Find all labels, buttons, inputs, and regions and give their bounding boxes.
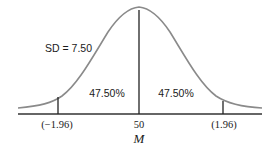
x-axis-label: M [133, 131, 146, 146]
left-area-label: 47.50% [89, 87, 125, 99]
normal-distribution-chart: SD = 7.50 47.50% 47.50% (−1.96) 50 (1.96… [0, 0, 278, 155]
normal-curve [18, 7, 262, 108]
tick-label-center: 50 [134, 119, 145, 130]
tick-label-left: (−1.96) [41, 119, 73, 131]
sd-label: SD = 7.50 [45, 42, 92, 54]
right-area-label: 47.50% [158, 87, 194, 99]
tick-label-right: (1.96) [211, 119, 237, 131]
